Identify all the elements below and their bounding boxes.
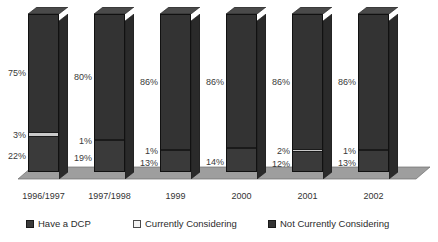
plot-area: 22%3%75%19%1%80%13%1%86%14%86%12%2%86%13… [0, 0, 438, 196]
bar-column[interactable] [226, 14, 266, 172]
legend-item-not-currently-considering[interactable]: Not Currently Considering [268, 218, 389, 230]
data-label: 14% [198, 157, 224, 167]
x-axis-labels: 1996/19971997/19981999200020012002 [0, 190, 438, 204]
bar-column[interactable] [28, 14, 68, 172]
bar-segment [29, 15, 58, 132]
data-label: 86% [198, 77, 224, 87]
bar-front-face [160, 14, 191, 172]
data-label: 86% [264, 77, 290, 87]
bar-top-face [28, 7, 68, 14]
bar-segment [359, 15, 388, 149]
legend-item-have-a-dcp[interactable]: Have a DCP [26, 218, 91, 230]
x-axis-label: 1996/1997 [6, 190, 81, 202]
data-label: 75% [0, 68, 26, 78]
bar-segment [293, 15, 322, 149]
bar-segment [227, 149, 256, 171]
bar-segment [161, 15, 190, 149]
data-label: 1% [66, 136, 92, 146]
data-label: 13% [330, 158, 356, 168]
stacked-column-chart: 22%3%75%19%1%80%13%1%86%14%86%12%2%86%13… [0, 0, 438, 242]
bar-segment [161, 151, 190, 171]
bar-front-face [292, 14, 323, 172]
bar-side-face [59, 14, 68, 172]
bar-top-face [160, 7, 200, 14]
x-axis-label: 2000 [204, 190, 279, 202]
chart-legend: Have a DCP Currently Considering Not Cur… [0, 218, 438, 236]
x-axis-label: 1997/1998 [72, 190, 147, 202]
bar-column[interactable] [160, 14, 200, 172]
legend-item-currently-considering[interactable]: Currently Considering [133, 218, 237, 230]
data-label: 19% [66, 153, 92, 163]
bar-side-face [191, 14, 200, 172]
bar-segment [95, 141, 124, 171]
bar-column[interactable] [94, 14, 134, 172]
bar-front-face [28, 14, 59, 172]
data-label: 1% [132, 146, 158, 156]
x-axis-label: 2001 [270, 190, 345, 202]
data-label: 22% [0, 151, 26, 161]
bar-column[interactable] [292, 14, 332, 172]
bar-segment [95, 15, 124, 139]
bar-side-face [389, 14, 398, 172]
x-axis-label: 2002 [336, 190, 411, 202]
data-label: 3% [0, 130, 26, 140]
bar-segment [293, 152, 322, 171]
legend-swatch-icon-currently-considering [133, 220, 141, 228]
bar-segment [29, 137, 58, 171]
bar-top-face [94, 7, 134, 14]
legend-swatch-icon-have-a-dcp [26, 220, 34, 228]
data-label: 1% [330, 146, 356, 156]
x-axis-label: 1999 [138, 190, 213, 202]
data-label: 86% [330, 77, 356, 87]
legend-swatch-icon-not-currently-considering [268, 220, 276, 228]
data-label: 80% [66, 72, 92, 82]
bar-top-face [358, 7, 398, 14]
bar-top-face [226, 7, 266, 14]
legend-label-not-currently-considering: Not Currently Considering [280, 218, 389, 230]
data-label: 2% [264, 146, 290, 156]
bar-front-face [358, 14, 389, 172]
bar-front-face [226, 14, 257, 172]
bar-column[interactable] [358, 14, 398, 172]
bar-segment [227, 15, 256, 147]
bar-front-face [94, 14, 125, 172]
bar-segment [359, 151, 388, 171]
data-label: 86% [132, 77, 158, 87]
data-label: 12% [264, 159, 290, 169]
bar-top-face [292, 7, 332, 14]
data-label: 13% [132, 158, 158, 168]
legend-label-currently-considering: Currently Considering [145, 218, 237, 230]
legend-label-have-a-dcp: Have a DCP [38, 218, 91, 230]
